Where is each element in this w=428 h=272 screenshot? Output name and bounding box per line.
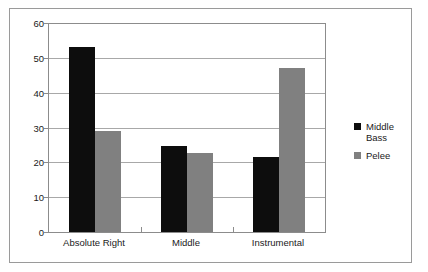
bar <box>161 146 187 232</box>
x-axis-group-separator <box>233 227 234 232</box>
bar <box>279 68 305 232</box>
bar <box>187 153 213 232</box>
chart-frame: 0102030405060 Absolute RightMiddleInstru… <box>9 8 412 263</box>
y-axis: 0102030405060 <box>10 23 44 233</box>
x-axis-group-separator <box>141 227 142 232</box>
y-axis-tick-label: 10 <box>10 193 44 202</box>
y-axis-tick-label: 20 <box>10 158 44 167</box>
y-axis-tick-label: 0 <box>10 228 44 237</box>
gridline <box>49 23 325 24</box>
legend-item-label: Pelee <box>366 150 390 161</box>
y-axis-tick-label: 60 <box>10 19 44 28</box>
bar <box>69 47 95 232</box>
x-axis-tick-label: Instrumental <box>252 237 304 248</box>
x-axis-tick-label: Middle <box>172 237 200 248</box>
legend-swatch-icon <box>354 123 361 130</box>
legend-swatch-icon <box>354 152 361 159</box>
y-axis-tick-label: 40 <box>10 88 44 97</box>
legend-item: Middle Bass <box>354 121 412 143</box>
y-axis-tick-label: 50 <box>10 53 44 62</box>
legend-item: Pelee <box>354 150 412 161</box>
x-axis-tick-label: Absolute Right <box>63 237 125 248</box>
bar <box>95 131 121 232</box>
legend-item-label: Middle Bass <box>366 121 394 143</box>
bar <box>253 157 279 232</box>
y-axis-tick-label: 30 <box>10 123 44 132</box>
plot-area <box>48 23 326 233</box>
chart-legend: Middle BassPelee <box>354 121 412 168</box>
x-axis: Absolute RightMiddleInstrumental <box>48 237 326 257</box>
